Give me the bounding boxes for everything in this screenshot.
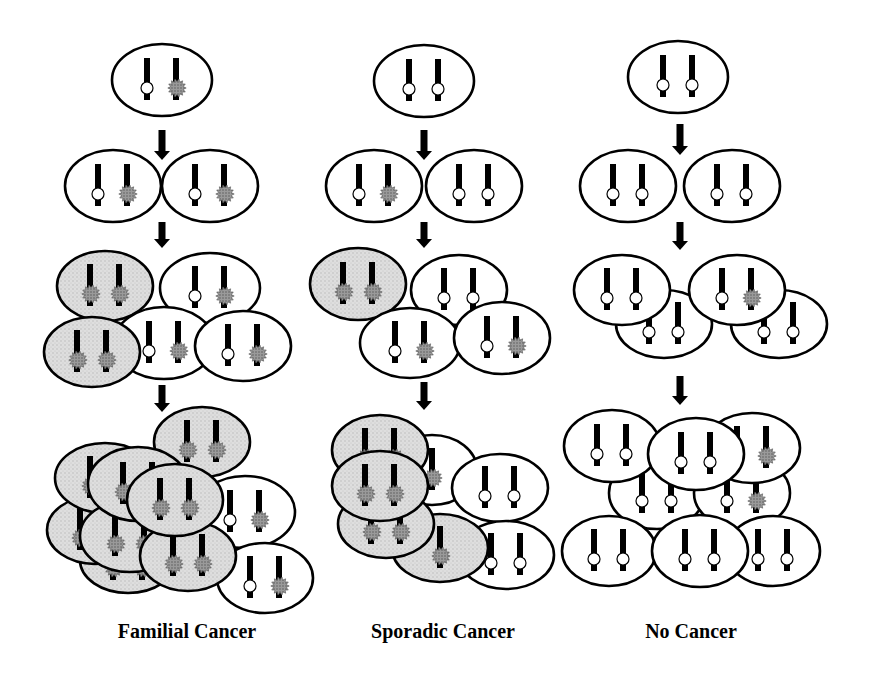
arrow-down-icon (672, 124, 688, 155)
label-sporadic-cancer: Sporadic Cancer (371, 620, 515, 643)
column-none (562, 41, 827, 587)
wildtype-allele-icon (716, 292, 728, 304)
cell (580, 150, 676, 222)
two-hit-hypothesis-diagram (0, 0, 872, 680)
wildtype-allele-icon (643, 326, 655, 338)
wildtype-allele-icon (711, 188, 723, 200)
wildtype-allele-icon (679, 553, 691, 565)
wildtype-allele-icon (721, 495, 733, 507)
wildtype-allele-icon (708, 553, 720, 565)
wildtype-allele-icon (758, 326, 770, 338)
wildtype-allele-icon (467, 292, 479, 304)
tumor-cell (44, 317, 140, 387)
wildtype-allele-icon (657, 79, 669, 91)
wildtype-allele-icon (781, 553, 793, 565)
wildtype-allele-icon (740, 188, 752, 200)
wildtype-allele-icon (482, 188, 494, 200)
wildtype-allele-icon (453, 188, 465, 200)
wildtype-allele-icon (514, 557, 526, 569)
wildtype-allele-icon (189, 188, 201, 200)
cell (162, 150, 258, 222)
cell (562, 516, 656, 586)
wildtype-allele-icon (620, 448, 632, 460)
wildtype-allele-icon (222, 348, 234, 360)
label-familial-cancer: Familial Cancer (118, 620, 256, 643)
wildtype-allele-icon (244, 580, 256, 592)
wildtype-allele-icon (438, 292, 450, 304)
wildtype-allele-icon (675, 456, 687, 468)
cell (574, 255, 670, 325)
wildtype-allele-icon (787, 326, 799, 338)
wildtype-allele-icon (189, 290, 201, 302)
cell (360, 308, 460, 378)
wildtype-allele-icon (92, 188, 104, 200)
wildtype-allele-icon (481, 340, 493, 352)
wildtype-allele-icon (479, 490, 491, 502)
arrow-down-icon (416, 130, 432, 160)
arrow-down-icon (416, 222, 432, 248)
arrow-down-icon (672, 222, 688, 250)
wildtype-allele-icon (665, 495, 677, 507)
arrow-down-icon (672, 376, 688, 405)
wildtype-allele-icon (601, 292, 613, 304)
column-familial (44, 44, 313, 613)
column-sporadic (310, 45, 554, 589)
arrow-down-icon (154, 130, 170, 160)
cell (452, 454, 548, 522)
cell (648, 418, 744, 490)
wildtype-allele-icon (752, 553, 764, 565)
wildtype-allele-icon (389, 345, 401, 357)
wildtype-allele-icon (686, 79, 698, 91)
wildtype-allele-icon (636, 188, 648, 200)
wildtype-allele-icon (224, 514, 236, 526)
wildtype-allele-icon (143, 345, 155, 357)
wildtype-allele-icon (672, 326, 684, 338)
cell (195, 311, 291, 381)
cell (112, 44, 212, 116)
wildtype-allele-icon (403, 83, 415, 95)
wildtype-allele-icon (508, 490, 520, 502)
tumor-cell (332, 451, 428, 521)
cell (426, 150, 522, 222)
wildtype-allele-icon (630, 292, 642, 304)
wildtype-allele-icon (704, 456, 716, 468)
cell (628, 41, 728, 113)
cell (652, 515, 748, 587)
cell (564, 410, 660, 482)
cell (374, 45, 474, 117)
cell (689, 255, 785, 325)
wildtype-allele-icon (588, 553, 600, 565)
arrow-down-icon (154, 222, 170, 248)
wildtype-allele-icon (432, 83, 444, 95)
wildtype-allele-icon (636, 495, 648, 507)
arrow-down-icon (154, 385, 170, 412)
cell (454, 302, 550, 374)
wildtype-allele-icon (353, 188, 365, 200)
wildtype-allele-icon (607, 188, 619, 200)
cell (326, 150, 422, 222)
cell (684, 150, 780, 222)
cell (65, 150, 161, 222)
tumor-cell (127, 464, 223, 536)
wildtype-allele-icon (617, 553, 629, 565)
arrow-down-icon (416, 382, 432, 410)
wildtype-allele-icon (591, 448, 603, 460)
wildtype-allele-icon (141, 82, 153, 94)
label-no-cancer: No Cancer (645, 620, 737, 643)
